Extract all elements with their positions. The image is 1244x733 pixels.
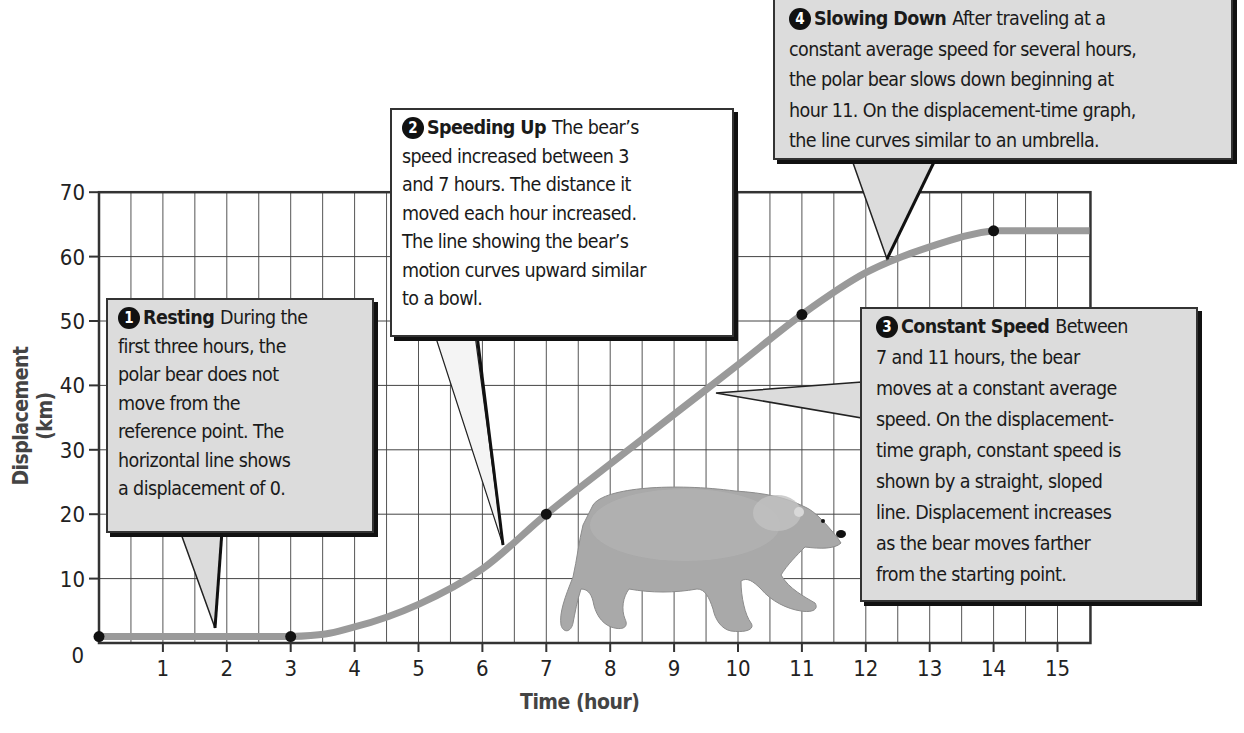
callout-line: After traveling at a — [952, 7, 1105, 30]
number-badge: 1 — [118, 307, 140, 329]
callout-line: from the starting point. — [876, 563, 1066, 586]
callout-line: speed. On the displacement- — [876, 408, 1113, 431]
callout-line: polar bear does not — [118, 363, 278, 386]
polar-bear-icon — [561, 487, 846, 631]
callout-line: and 7 hours. The distance it — [402, 173, 631, 196]
data-point — [796, 309, 807, 320]
callout-line: moves at a constant average — [876, 377, 1117, 400]
callout-line: move from the — [118, 392, 240, 415]
callout-line: line. Displacement increases — [876, 501, 1111, 524]
callout-resting: 1RestingDuring the first three hours, th… — [106, 298, 374, 533]
y-tick-label: 10 — [60, 567, 85, 592]
callout-line: The bear’s — [552, 116, 639, 139]
y-tick-label: 20 — [60, 502, 85, 527]
data-point — [988, 225, 999, 236]
callout-line: shown by a straight, sloped — [876, 470, 1102, 493]
callout-line: to a bowl. — [402, 287, 482, 310]
data-point — [285, 631, 296, 642]
y-tick-label: 70 — [60, 180, 85, 205]
x-axis-ticks: 123456789101112131415 — [157, 643, 1070, 681]
x-tick-label: 15 — [1045, 656, 1070, 681]
callout-title: Constant Speed — [901, 315, 1049, 338]
callout-line: the polar bear slows down beginning at — [789, 68, 1114, 91]
x-tick-label: 3 — [284, 656, 297, 681]
callout-title: Speeding Up — [427, 116, 546, 139]
callout-line: The line showing the bear’s — [402, 230, 628, 253]
x-tick-label: 14 — [981, 656, 1006, 681]
x-tick-label: 11 — [789, 656, 814, 681]
x-tick-label: 13 — [917, 656, 942, 681]
callout-speeding-up: 2Speeding UpThe bear’s speed increased b… — [390, 108, 734, 337]
callout-title: Resting — [143, 306, 214, 329]
x-tick-label: 12 — [853, 656, 878, 681]
x-tick-label: 1 — [157, 656, 170, 681]
number-badge: 2 — [402, 117, 424, 139]
number-badge: 4 — [789, 8, 811, 30]
callout-line: first three hours, the — [118, 335, 286, 358]
x-axis-label: Time (hour) — [520, 690, 639, 714]
callout-line: time graph, constant speed is — [876, 439, 1121, 462]
callout-line: reference point. The — [118, 420, 284, 443]
number-badge: 3 — [876, 316, 898, 338]
y-axis-ticks: 010203040506070 — [60, 180, 99, 668]
callout-line: hour 11. On the displacement-time graph, — [789, 99, 1136, 122]
callout-line: speed increased between 3 — [402, 145, 629, 168]
y-tick-label: 40 — [60, 373, 85, 398]
data-point — [94, 631, 105, 642]
x-tick-label: 5 — [412, 656, 425, 681]
callout-slowing-down: 4Slowing DownAfter traveling at a consta… — [773, 0, 1233, 160]
callout-line: 7 and 11 hours, the bear — [876, 346, 1080, 369]
callout-line: During the — [220, 306, 307, 329]
callout-line: Between — [1055, 315, 1128, 338]
callout-title: Slowing Down — [814, 7, 946, 30]
y-tick-label: 60 — [60, 245, 85, 270]
callout-line: moved each hour increased. — [402, 202, 636, 225]
y-tick-label: 0 — [71, 643, 84, 668]
y-axis-label: Displacement (km) — [9, 321, 57, 511]
x-tick-label: 4 — [348, 656, 361, 681]
callout-line: a displacement of 0. — [118, 477, 285, 500]
x-tick-label: 10 — [725, 656, 750, 681]
x-tick-label: 7 — [540, 656, 553, 681]
y-tick-label: 50 — [60, 309, 85, 334]
x-tick-label: 9 — [668, 656, 681, 681]
data-point — [541, 509, 552, 520]
x-tick-label: 8 — [604, 656, 617, 681]
callout-line: the line curves similar to an umbrella. — [789, 129, 1099, 152]
callout-line: constant average speed for several hours… — [789, 38, 1136, 61]
callout-line: motion curves upward similar — [402, 259, 646, 282]
callout-line: horizontal line shows — [118, 449, 290, 472]
x-tick-label: 2 — [221, 656, 234, 681]
x-tick-label: 6 — [476, 656, 489, 681]
callout-line: as the bear moves farther — [876, 532, 1090, 555]
callout-constant-speed: 3Constant SpeedBetween 7 and 11 hours, t… — [860, 307, 1198, 602]
y-tick-label: 30 — [60, 438, 85, 463]
